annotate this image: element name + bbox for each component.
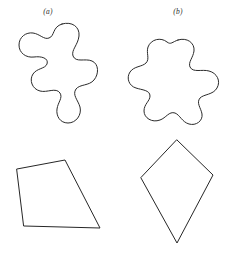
quadrilateral-shape-b	[141, 140, 213, 243]
figure-container: (a) (b)	[0, 0, 241, 254]
blob-shape-a	[19, 23, 98, 123]
figure-drawing-canvas	[0, 0, 241, 254]
blob-shape-b	[128, 39, 218, 124]
quadrilateral-shape-a	[17, 160, 100, 228]
